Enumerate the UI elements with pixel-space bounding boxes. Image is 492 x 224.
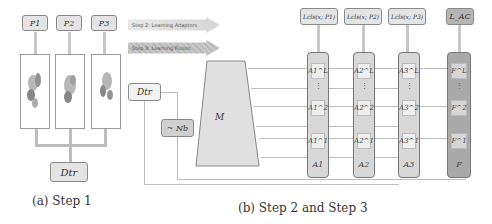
connector-line [144,184,399,185]
noise-box: ~ Nb [161,119,194,137]
p3-box: P3 [91,15,117,31]
fusion-layer-1: F^1 [451,133,467,149]
adaptor-1-layer-1: A1^1 [311,133,325,149]
loss-cls-3: Lcls(x; P3) [388,8,426,25]
ellipsis-icon: ⋮ [308,84,328,88]
step2-banner: Step 2: Learning Adaptors [128,17,220,33]
arrow-p1 [34,32,37,54]
adaptor-column-3: A3^L ⋮ A3^2 A3^1 A3 [398,52,420,178]
adaptor-2-layer-L: A2^L [357,63,371,79]
model-label: M [215,112,224,122]
dtr-box-step2: Dtr [128,83,161,101]
fusion-label: F [448,160,470,169]
arrow-loss-3 [406,25,409,53]
model-trapezoid [195,60,265,168]
caption-step2-3: (b) Step 2 and Step 3 [238,201,368,215]
arrow-loss-2 [362,25,365,53]
ellipsis-icon: ⋮ [448,84,470,88]
connector-line [177,137,178,179]
fusion-layer-L: F^L [451,63,467,79]
scatter-plot-2 [55,54,85,129]
arrow-loss-1 [317,25,320,53]
dtr-box-step1: Dtr [50,162,88,182]
adaptor-3-layer-2: A3^2 [402,100,416,116]
adaptor-2-layer-2: A2^2 [357,100,371,116]
connector-line [161,92,177,93]
adaptor-column-1: A1^L ⋮ A1^2 A1^1 A1 [307,52,329,178]
loss-ac: L_AC [446,8,474,25]
loss-cls-1: Lcls(x; P1) [300,8,338,25]
p1-box: P1 [22,15,48,31]
connector-line [144,101,145,185]
arrow-loss-ac [458,25,461,53]
connector-line [35,144,107,147]
scatter-points-icon [92,55,120,128]
adaptor-1-layer-L: A1^L [311,63,325,79]
adaptor-2-label: A2 [354,160,374,169]
arrow-p3 [103,32,106,54]
fusion-layer-2: F^2 [451,100,467,116]
scatter-plot-1 [20,54,50,129]
connector-line [177,179,465,180]
scatter-points-icon [21,55,49,128]
feature-line [261,157,399,158]
adaptor-column-2: A2^L ⋮ A2^2 A2^1 A2 [353,52,375,178]
adaptor-3-layer-L: A3^L [402,63,416,79]
arrow-p2 [68,32,71,54]
adaptor-1-layer-2: A1^2 [311,100,325,116]
adaptor-3-layer-1: A3^1 [402,133,416,149]
ellipsis-icon: ⋮ [354,84,374,88]
step3-banner: Step 3: Learning Fusion [128,40,220,56]
fusion-column: F^L ⋮ F^2 F^1 F [447,52,471,178]
ellipsis-icon: ⋮ [399,84,419,88]
adaptor-2-layer-1: A2^1 [357,133,371,149]
scatter-points-icon [56,55,84,128]
adaptor-3-label: A3 [399,160,419,169]
caption-step1: (a) Step 1 [32,194,92,208]
connector-line [177,92,178,119]
loss-cls-2: Lcls(x; P2) [344,8,382,25]
scatter-plot-3 [91,54,121,129]
adaptor-1-label: A1 [308,160,328,169]
p2-box: P2 [56,15,82,31]
